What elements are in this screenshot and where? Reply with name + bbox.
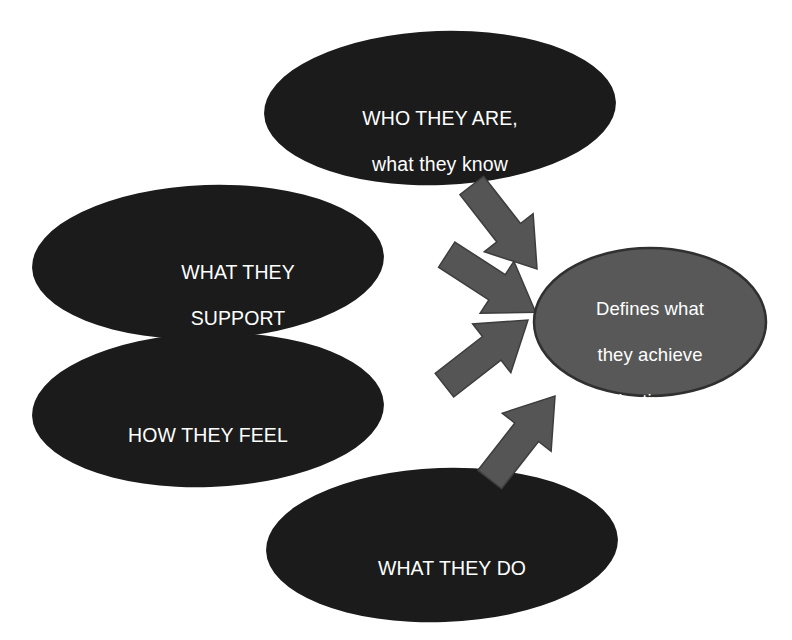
who-they-are-ellipse-shape [261, 25, 618, 191]
node-how-they-feel[interactable] [29, 327, 386, 493]
diagram-svg [0, 0, 792, 640]
node-who-they-are[interactable] [261, 25, 618, 191]
what-they-support-ellipse-shape [29, 179, 386, 345]
node-defines-what-they-achieve[interactable] [534, 248, 766, 396]
result-ellipse-shape [534, 248, 766, 396]
how-they-feel-ellipse-shape [29, 327, 386, 493]
diagram-canvas: WHO THEY ARE, what they know WHAT THEY S… [0, 0, 792, 640]
what-they-do-ellipse-shape [263, 462, 620, 628]
node-what-they-do[interactable] [263, 462, 620, 628]
node-what-they-support[interactable] [29, 179, 386, 345]
